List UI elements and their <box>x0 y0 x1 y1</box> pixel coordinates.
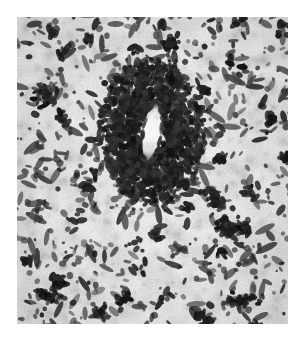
figure-root <box>0 0 305 340</box>
tissue-micrograph <box>17 17 288 324</box>
tissue-canvas <box>17 17 288 324</box>
